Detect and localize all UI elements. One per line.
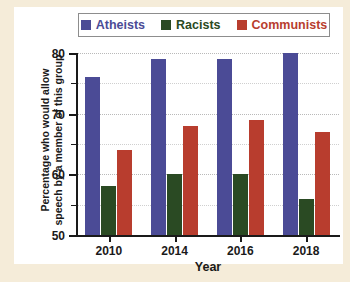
legend-label-communists: Communists	[252, 19, 328, 32]
legend-item-communists: Communists	[237, 19, 328, 32]
legend-item-atheists: Atheists	[81, 19, 145, 32]
y-axis-tick-major: 70	[69, 114, 76, 116]
y-axis-title-line-2: speech by a member of this group	[52, 40, 65, 240]
chart-page: Atheists Racists Communists Percentage w…	[0, 0, 350, 282]
x-axis-spine	[76, 235, 340, 237]
y-axis-tick-label: 80	[52, 47, 65, 61]
chart-panel: Atheists Racists Communists Percentage w…	[14, 7, 343, 264]
legend-item-racists: Racists	[161, 19, 220, 32]
y-axis-spine	[76, 53, 78, 236]
y-axis-tick-major: 80	[69, 53, 76, 55]
y-axis-tick-label: 60	[52, 168, 65, 182]
legend-label-racists: Racists	[176, 19, 220, 32]
y-axis-tick-major: 50	[69, 235, 76, 237]
bar-group	[76, 53, 339, 235]
y-axis-tick-label: 70	[52, 108, 65, 122]
plot-area: 50607080 2010201420162018	[76, 53, 339, 235]
legend-label-atheists: Atheists	[96, 19, 145, 32]
x-axis-tick-label: 2010	[96, 244, 123, 258]
y-axis-tick-major: 60	[69, 174, 76, 176]
legend-swatch-racists-icon	[161, 20, 171, 30]
x-axis-title: Year	[76, 260, 340, 274]
x-axis-tick-label: 2014	[161, 244, 188, 258]
bar-atheists-2018	[283, 53, 298, 235]
x-axis-tick-label: 2018	[293, 244, 320, 258]
legend-swatch-atheists-icon	[81, 20, 91, 30]
bar-racists-2018	[299, 199, 314, 235]
y-axis-title: Percentage who would allow speech by a m…	[39, 40, 65, 240]
bar-communists-2018	[315, 132, 330, 235]
x-axis-tick-label: 2016	[227, 244, 254, 258]
chart-legend: Atheists Racists Communists	[78, 13, 330, 37]
y-axis-title-line-1: Percentage who would allow	[39, 40, 52, 240]
y-axis-tick-label: 50	[52, 229, 65, 243]
legend-swatch-communists-icon	[237, 20, 247, 30]
